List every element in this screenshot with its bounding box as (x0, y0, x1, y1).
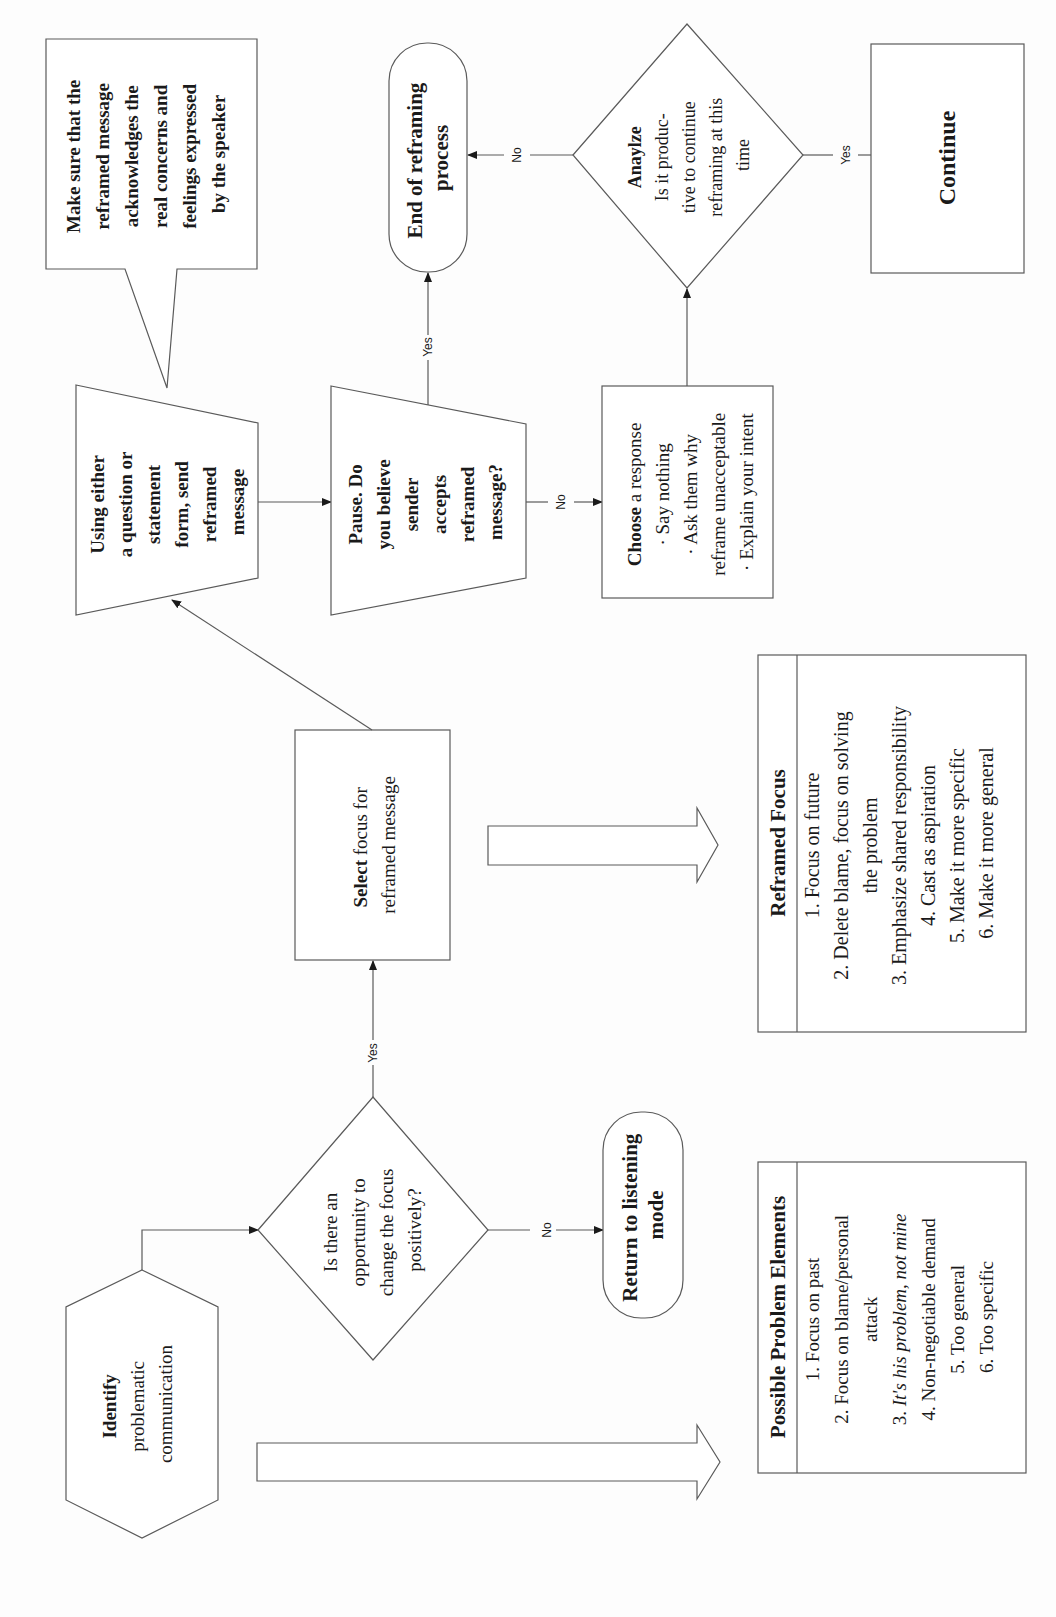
problem-item-3-num: 3. (889, 1406, 910, 1425)
choose-response-node: Choose a response · Say nothing · Ask th… (602, 386, 773, 598)
pause-bold: Pause. (345, 492, 366, 544)
send-line-4: form, send (171, 461, 192, 548)
edge-label-no-opportunity: No (540, 1222, 554, 1238)
pause-line-1: Pause. Do (345, 464, 366, 544)
choose-bold: Choose (624, 507, 645, 566)
analyze-line-3: reframing at this (706, 98, 726, 217)
send-form: form, (171, 498, 192, 548)
reframed-item-4: 4. Cast as aspiration (917, 765, 940, 926)
pause-decision-node: Pause. Do you believe sender accepts ref… (331, 386, 526, 615)
choose-line-3: · Ask them why (680, 433, 701, 554)
opportunity-decision: Is there an opportunity to change the fo… (258, 1097, 488, 1360)
reframed-item-3: 3. Emphasize shared responsibility (888, 706, 911, 985)
choose-line-5: · Explain your intent (736, 412, 757, 570)
pause-line-5: reframed (457, 466, 478, 542)
reframed-item-2b: the problem (859, 797, 882, 894)
identify-node: Identify problematic communication (66, 1270, 218, 1538)
edge-label-no-analyze: No (510, 147, 524, 163)
send-line-5: reframed (199, 466, 220, 542)
flowchart-canvas: Identify problematic communication Is th… (0, 0, 1056, 1617)
send-bold: send (171, 461, 192, 498)
select-line-2: reframed message (378, 776, 399, 914)
callout-line-5: feelings expressed (179, 84, 200, 229)
problem-item-4: 4. Non-negotiable demand (918, 1218, 939, 1421)
callout-note: Make sure that the reframed message ackn… (46, 39, 257, 388)
return-to-listening-node: Return to listening mode (603, 1112, 683, 1318)
choose-rest: a response (624, 423, 645, 507)
problem-item-1: 1. Focus on past (802, 1257, 823, 1381)
select-bold: Select (350, 859, 371, 907)
reframed-item-1: 1. Focus on future (801, 773, 823, 919)
connector-identify-to-opportunity (142, 1230, 258, 1270)
problem-item-5: 5. Too general (947, 1265, 968, 1374)
reframed-focus-title: Reframed Focus (766, 769, 790, 917)
analyze-line-4: time (733, 139, 753, 171)
reframed-item-5: 5. Make it more specific (946, 748, 969, 943)
problem-item-6: 6. Too specific (976, 1261, 997, 1373)
send-line-3: statement (143, 464, 164, 544)
callout-line-4: real concerns and (150, 84, 171, 228)
opportunity-line-4: positively? (404, 1188, 425, 1271)
send-line-6: message (227, 469, 248, 535)
edge-label-yes-opportunity: Yes (366, 1043, 380, 1063)
problem-elements-title: Possible Problem Elements (766, 1196, 790, 1438)
choose-line-4: reframe unacceptable (708, 413, 729, 576)
reframed-item-6: 6. Make it more general (975, 747, 998, 939)
analyze-line-2: tive to continue (679, 101, 699, 213)
opportunity-line-1: Is there an (320, 1192, 341, 1272)
return-line-2: mode (644, 1191, 668, 1240)
pause-line-6: message? (485, 464, 506, 540)
analyze-decision: Anaylze Is it produc- tive to continue r… (573, 24, 803, 288)
callout-line-1: Make sure that the (63, 80, 84, 233)
problem-item-2b: attack (860, 1296, 881, 1342)
problem-item-3: 3. It's his problem, not mine (889, 1213, 910, 1425)
svg-text:Choose a response · Say: Choose a response · Say nothing · Ask th… (624, 408, 757, 576)
identify-line-2: communication (155, 1344, 176, 1463)
send-line-1: Using either (87, 454, 108, 553)
continue-label: Continue (934, 110, 960, 205)
hollow-arrow-to-problem-elements (257, 1425, 720, 1499)
flowchart-svg: Identify problematic communication Is th… (0, 0, 1056, 1617)
reframed-item-2: 2. Delete blame, focus on solving (830, 711, 853, 979)
callout-line-6: by the speaker (208, 94, 229, 213)
choose-line-1: Choose a response (624, 423, 645, 567)
edge-label-yes-analyze: Yes (839, 145, 853, 165)
problem-item-3-text: It's his problem, not mine (889, 1213, 910, 1407)
send-line-2: a question or (115, 451, 136, 557)
end-line-2: process (429, 125, 453, 191)
end-line-1: End of reframing (403, 82, 427, 238)
analyze-line-1: Is it produc- (652, 113, 672, 201)
problem-item-2: 2. Focus on blame/personal (831, 1215, 852, 1424)
select-focus-node: Select focus for reframed message (295, 730, 450, 960)
edge-label-no-pause: No (554, 494, 568, 510)
pause-line-3: sender (401, 477, 422, 531)
select-rest: focus for (350, 787, 371, 860)
analyze-bold: Anaylze (625, 126, 645, 188)
edge-label-yes-pause: Yes (421, 337, 435, 357)
problem-elements-box: Possible Problem Elements 1. Focus on pa… (758, 1162, 1026, 1473)
return-line-1: Return to listening (618, 1133, 642, 1302)
end-of-reframing-node: End of reframing process (389, 43, 467, 272)
choose-line-2: · Say nothing (652, 443, 673, 546)
connector-select-to-send (172, 600, 372, 730)
hollow-arrow-to-reframed-focus (488, 808, 718, 882)
select-line-1: Select focus for (350, 787, 371, 908)
identify-bold: Identify (99, 1374, 120, 1439)
opportunity-line-2: opportunity to (348, 1178, 369, 1286)
continue-node: Continue (871, 44, 1024, 273)
pause-line-2: you believe (373, 459, 394, 549)
callout-line-3: acknowledges the (121, 85, 142, 227)
pause-line-4: accepts (429, 475, 450, 534)
opportunity-line-3: change the focus (376, 1169, 397, 1297)
send-reframed-message-node: Using either a question or statement for… (76, 385, 258, 615)
identify-line-1: problematic (127, 1361, 148, 1452)
pause-rest: Do (345, 464, 366, 492)
callout-line-2: reframed message (92, 83, 113, 230)
reframed-focus-box: Reframed Focus 1. Focus on future 2. Del… (758, 655, 1026, 1032)
